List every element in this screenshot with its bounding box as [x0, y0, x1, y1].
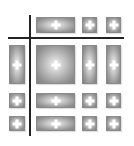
- horizontal-divider-line: [8, 37, 124, 39]
- grid-cell: [106, 45, 121, 84]
- plus-icon: [51, 96, 60, 105]
- grid-cell: [106, 93, 121, 108]
- vertical-divider-line: [29, 15, 31, 136]
- plus-icon: [51, 21, 60, 30]
- plus-icon: [85, 21, 94, 30]
- grid-cell: [82, 17, 97, 33]
- plus-icon: [109, 21, 118, 30]
- grid-cell: [106, 17, 121, 33]
- grid-cell: [36, 17, 75, 33]
- grid-cell: [106, 116, 121, 131]
- grid-cell: [36, 93, 75, 108]
- plus-icon: [13, 119, 22, 128]
- plus-icon: [109, 119, 118, 128]
- grid-cell: [9, 93, 25, 108]
- plus-icon: [85, 96, 94, 105]
- plus-icon: [85, 119, 94, 128]
- plus-icon: [109, 60, 118, 69]
- plus-icon: [13, 96, 22, 105]
- grid-cell: [36, 116, 75, 131]
- grid-cell: [82, 116, 97, 131]
- plus-icon: [109, 96, 118, 105]
- plus-icon: [51, 119, 60, 128]
- grid-cell: [82, 93, 97, 108]
- grid-cell: [36, 45, 75, 84]
- grid-cell: [82, 45, 97, 84]
- plus-icon: [13, 60, 22, 69]
- grid-cell: [9, 116, 25, 131]
- plus-icon: [85, 60, 94, 69]
- grid-cell: [9, 45, 25, 84]
- plus-icon: [51, 60, 60, 69]
